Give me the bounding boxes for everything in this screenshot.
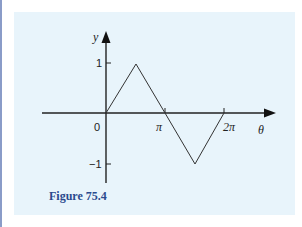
x-axis-label: θ bbox=[258, 123, 264, 137]
y-tick-label-neg1: −1 bbox=[89, 158, 102, 170]
x-tick-label-pi: π bbox=[156, 120, 163, 134]
y-axis-label: y bbox=[92, 30, 99, 44]
x-axis-arrow-icon bbox=[264, 109, 276, 118]
chart-canvas: y 1 −1 0 π 2π θ bbox=[0, 0, 302, 227]
figure-caption: Figure 75.4 bbox=[49, 189, 107, 204]
y-tick-label-1: 1 bbox=[96, 57, 102, 69]
y-axis-arrow-icon bbox=[102, 31, 111, 43]
x-tick-label-2pi: 2π bbox=[223, 120, 236, 134]
origin-label: 0 bbox=[94, 121, 100, 133]
triangle-wave-series bbox=[106, 64, 224, 164]
